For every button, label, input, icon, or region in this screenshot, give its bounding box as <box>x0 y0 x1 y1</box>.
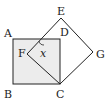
label-g: G <box>96 48 105 61</box>
label-d: D <box>60 26 69 39</box>
geometry-diagram: A B C D E F G x <box>0 0 112 112</box>
diagram-canvas: A B C D E F G x <box>0 0 112 112</box>
label-c: C <box>56 88 64 101</box>
angle-x-label: x <box>40 47 47 60</box>
label-a: A <box>3 27 13 40</box>
label-e: E <box>57 5 65 18</box>
label-f: F <box>18 47 26 60</box>
label-b: B <box>4 88 12 101</box>
